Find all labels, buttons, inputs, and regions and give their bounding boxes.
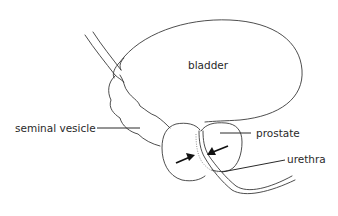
urethra-tube (199, 131, 295, 194)
seminal-vesicle-outline (109, 75, 170, 146)
urethra-label: urethra (287, 154, 326, 165)
prostate-label: prostate (256, 128, 300, 139)
prostate-right-lobe (201, 123, 242, 172)
prostate-left-lobe (162, 123, 205, 181)
vas-deferens (85, 32, 121, 75)
seminal-vesicle-label: seminal vesicle (15, 123, 96, 134)
arrow-right-icon (207, 146, 228, 155)
anatomy-diagram (0, 0, 338, 216)
vas-deferens-crossing (115, 58, 124, 82)
bladder-label: bladder (188, 60, 228, 71)
urethra-leader (222, 160, 285, 172)
arrow-left-icon (176, 153, 195, 163)
